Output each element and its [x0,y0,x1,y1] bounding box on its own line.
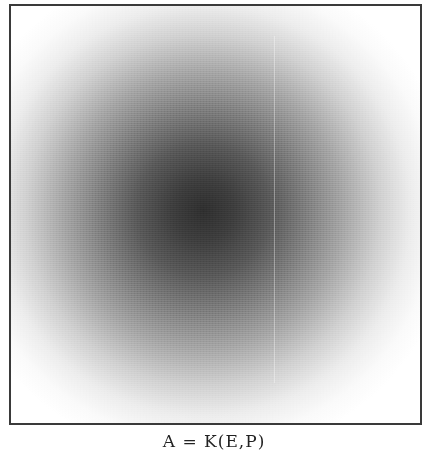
heatmap-grain [11,6,420,423]
vertical-streak [274,36,275,383]
heatmap-plot-frame [9,4,422,425]
figure-caption: A = K(E,P) [0,432,428,450]
